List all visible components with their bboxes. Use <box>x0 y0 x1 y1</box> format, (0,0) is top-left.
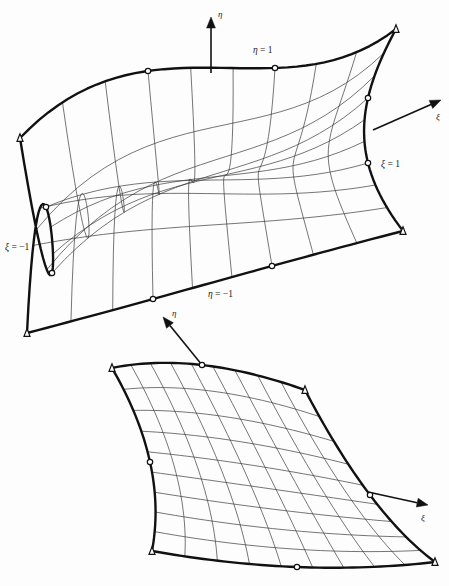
grid-line-constant-eta <box>46 163 368 207</box>
midside-node-marker <box>272 65 277 70</box>
midside-node-marker <box>199 362 204 367</box>
axis-symbol-label: η <box>172 308 177 318</box>
midside-node-marker <box>365 95 370 100</box>
midside-node-marker <box>49 270 54 275</box>
midside-node-marker <box>365 160 370 165</box>
midside-node-marker <box>145 68 150 73</box>
lower-element-grid <box>124 363 421 568</box>
grid-line-constant-eta <box>52 98 368 273</box>
corner-node-marker <box>302 386 308 394</box>
coordinate-value-label: ξ = 1 <box>381 159 400 170</box>
grid-line-constant-eta <box>124 388 320 417</box>
coordinate-labels: ηξη = 1ξ = 1ξ = −1η = −1ηξ <box>5 9 440 523</box>
grid-line-constant-xi <box>258 375 375 566</box>
grid-line-constant-eta <box>156 512 407 537</box>
lower-element-boundary <box>112 363 435 568</box>
grid-line-constant-eta <box>155 532 421 552</box>
grid-line-constant-xi <box>258 68 275 266</box>
axis-line <box>373 104 431 130</box>
grid-line-constant-xi <box>328 52 357 243</box>
coordinate-value-label: ξ = −1 <box>5 242 30 253</box>
coordinate-value-label: η = −1 <box>208 289 233 299</box>
grid-line-constant-eta <box>51 141 365 227</box>
element-boundary <box>112 363 435 568</box>
figure-container: ηξη = 1ξ = 1ξ = −1η = −1ηξ <box>0 0 449 586</box>
corner-node-marker <box>393 25 399 33</box>
grid-line-constant-eta <box>53 120 365 254</box>
axis-symbol-label: η <box>218 9 223 19</box>
axis-arrow-head <box>429 100 441 108</box>
grid-line-constant-xi <box>131 365 185 556</box>
grid-line-constant-xi <box>62 102 89 321</box>
grid-line-constant-xi <box>235 370 344 567</box>
isoparametric-elements-diagram: ηξη = 1ξ = 1ξ = −1η = −1ηξ <box>0 0 449 586</box>
grid-line-constant-xi <box>171 363 250 564</box>
midside-node-marker <box>147 459 152 464</box>
axis-line <box>170 326 202 365</box>
midside-node-marker <box>269 263 274 268</box>
midside-node-marker <box>294 564 299 569</box>
grid-line-constant-xi <box>150 363 217 560</box>
grid-line-constant-xi <box>293 64 316 255</box>
coordinate-value-label: η = 1 <box>253 45 273 55</box>
grid-line-constant-eta <box>40 185 376 208</box>
upper-element-grid <box>33 52 387 321</box>
midside-node-marker <box>43 204 48 209</box>
grid-line-constant-eta <box>133 410 334 441</box>
grid-line-constant-xi <box>224 68 234 277</box>
element-boundary <box>20 29 403 333</box>
midside-node-marker <box>150 296 155 301</box>
axis-symbol-label: ξ <box>436 112 440 122</box>
axis-arrow-head <box>416 498 428 507</box>
axis-arrows <box>163 17 441 507</box>
corner-node-marker <box>109 364 115 372</box>
grid-line-constant-xi <box>189 68 195 288</box>
midside-node-marker <box>367 492 372 497</box>
grid-line-constant-eta <box>36 53 384 230</box>
upper-element-boundary <box>20 29 403 333</box>
axis-arrow-head <box>207 17 216 28</box>
corner-node-marker <box>149 547 155 555</box>
axis-symbol-label: ξ <box>421 513 425 523</box>
corner-node-marker <box>24 329 30 337</box>
